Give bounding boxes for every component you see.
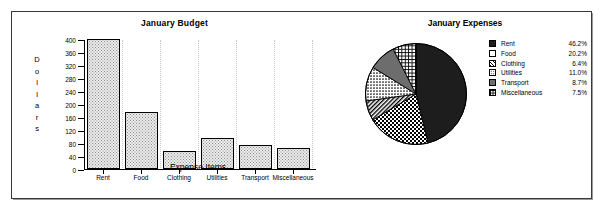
legend-label: Food — [501, 50, 569, 57]
grid-line-4 — [236, 40, 237, 170]
y-axis-label-char-1: o — [30, 66, 44, 78]
y-tick-label-40: 40 — [69, 154, 76, 161]
legend-item-transport: Transport8.7% — [489, 78, 587, 88]
y-tick-200 — [78, 105, 84, 106]
y-axis-label-char-3: l — [30, 89, 44, 101]
grid-line-6 — [312, 40, 313, 170]
y-tick-label-240: 240 — [65, 89, 76, 96]
y-axis-label-char-5: r — [30, 112, 44, 124]
legend-item-food: Food20.2% — [489, 49, 587, 59]
legend-item-utilities: Utilities11.0% — [489, 68, 587, 78]
y-tick-280 — [78, 79, 84, 80]
pie-chart-panel: January Expenses — [337, 12, 593, 198]
y-axis-label: Dollars — [30, 54, 44, 135]
y-tick-80 — [78, 144, 84, 145]
y-axis-line — [84, 40, 85, 170]
y-axis-label-char-0: D — [30, 54, 44, 66]
legend-label: Miscellaneous — [501, 89, 572, 96]
pie-legend: Rent46.2%Food20.2%Clothing6.4%Utilities1… — [489, 39, 587, 97]
grid-line-2 — [160, 40, 161, 170]
bar-rent — [87, 39, 120, 169]
x-tick-label-food: Food — [134, 174, 149, 181]
legend-swatch-icon-transport — [489, 79, 496, 86]
y-axis-label-char-4: a — [30, 100, 44, 112]
grid-line-5 — [274, 40, 275, 170]
y-tick-40 — [78, 157, 84, 158]
y-axis-label-char-2: l — [30, 77, 44, 89]
bar-food — [125, 112, 158, 169]
bar-chart-panel: January Budget Dollars 04080120160200240… — [12, 12, 337, 198]
grid-line-3 — [198, 40, 199, 170]
legend-percent: 20.2% — [569, 50, 587, 57]
x-tick-label-transport: Transport — [241, 174, 269, 181]
y-tick-label-320: 320 — [65, 63, 76, 70]
legend-swatch-icon-food — [489, 50, 496, 57]
x-tick-label-rent: Rent — [96, 174, 110, 181]
pie-graphic — [364, 42, 468, 146]
y-tick-320 — [78, 66, 84, 67]
y-tick-label-400: 400 — [65, 37, 76, 44]
y-tick-360 — [78, 53, 84, 54]
pie-slices — [365, 44, 466, 145]
legend-item-miscellaneous: Miscellaneous7.5% — [489, 87, 587, 97]
legend-percent: 11.0% — [569, 69, 587, 76]
bar-chart-title: January Budget — [12, 18, 337, 28]
legend-swatch-icon-clothing — [489, 60, 496, 67]
y-tick-label-280: 280 — [65, 76, 76, 83]
y-tick-120 — [78, 131, 84, 132]
legend-swatch-icon-rent — [489, 40, 496, 47]
legend-percent: 6.4% — [572, 60, 587, 67]
legend-percent: 7.5% — [572, 89, 587, 96]
grid-line-1 — [122, 40, 123, 170]
y-tick-label-0: 0 — [72, 167, 76, 174]
y-tick-160 — [78, 118, 84, 119]
legend-label: Rent — [501, 40, 569, 47]
y-axis-label-char-6: s — [30, 123, 44, 135]
pie-svg — [364, 42, 468, 146]
legend-label: Utilities — [501, 69, 569, 76]
legend-label: Clothing — [501, 60, 572, 67]
x-tick-label-miscellaneous: Miscellaneous — [272, 174, 313, 181]
x-tick-label-utilities: Utilities — [207, 174, 228, 181]
legend-item-rent: Rent46.2% — [489, 39, 587, 49]
y-tick-400 — [78, 40, 84, 41]
x-tick-label-clothing: Clothing — [167, 174, 191, 181]
legend-percent: 46.2% — [569, 40, 587, 47]
bar-plot-area: 04080120160200240280320360400 RentFoodCl… — [84, 40, 312, 170]
x-axis-label: Expense Items — [84, 162, 312, 172]
legend-item-clothing: Clothing6.4% — [489, 58, 587, 68]
legend-swatch-icon-miscellaneous — [489, 89, 496, 96]
pie-chart-title: January Expenses — [337, 18, 593, 28]
y-tick-label-80: 80 — [69, 141, 76, 148]
y-tick-label-200: 200 — [65, 102, 76, 109]
y-tick-label-120: 120 — [65, 128, 76, 135]
y-tick-label-160: 160 — [65, 115, 76, 122]
y-tick-label-360: 360 — [65, 50, 76, 57]
legend-percent: 8.7% — [572, 79, 587, 86]
legend-label: Transport — [501, 79, 572, 86]
chart-frame: January Budget Dollars 04080120160200240… — [11, 11, 592, 199]
legend-swatch-icon-utilities — [489, 69, 496, 76]
y-tick-240 — [78, 92, 84, 93]
